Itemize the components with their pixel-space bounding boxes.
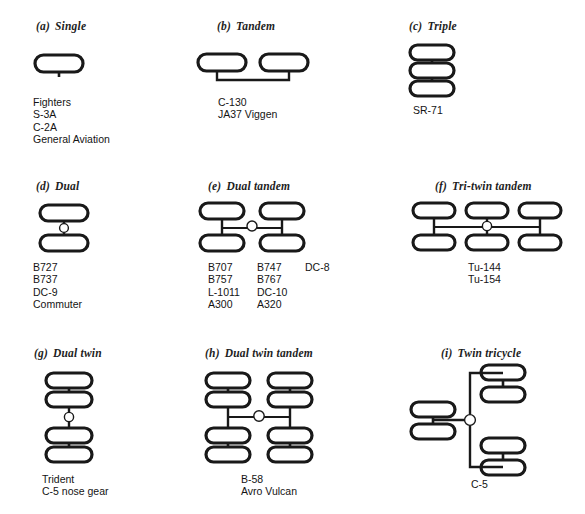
list-item: B757 bbox=[208, 273, 257, 285]
list-item: Commuter bbox=[33, 298, 153, 310]
panel-f-diagram bbox=[410, 199, 580, 257]
list-item: B707 bbox=[208, 261, 257, 273]
hub-circle-icon bbox=[482, 221, 491, 230]
list-column: Fighters S-3A C-2A General Aviation bbox=[33, 96, 153, 146]
hub-circle-icon bbox=[64, 412, 73, 421]
tire-icon bbox=[410, 63, 454, 78]
tire-icon bbox=[200, 203, 244, 219]
tire-icon bbox=[519, 235, 561, 250]
list-column: C-5 bbox=[471, 478, 581, 490]
panel-d-name: Dual bbox=[55, 180, 79, 192]
list-item: A300 bbox=[208, 298, 257, 310]
tire-icon bbox=[411, 424, 455, 439]
tire-icon bbox=[260, 235, 304, 251]
panel-a-label: (a) bbox=[36, 20, 50, 32]
list-item: B747 bbox=[257, 261, 305, 273]
hub-circle-icon bbox=[60, 224, 69, 233]
panel-d-aircraft-list: B727 B737 DC-9 Commuter bbox=[33, 261, 153, 311]
list-item: A320 bbox=[257, 298, 305, 310]
tire-icon bbox=[466, 203, 508, 218]
list-column: Tu-144 Tu-154 bbox=[468, 261, 558, 286]
panel-b-name: Tandem bbox=[236, 20, 275, 32]
panel-f-aircraft-list: Tu-144 Tu-154 bbox=[468, 261, 558, 286]
tire-icon bbox=[260, 54, 308, 71]
list-column: SR-71 bbox=[413, 104, 523, 116]
panel-e-label: (e) bbox=[208, 180, 221, 192]
panel-f-name: Tri-twin tandem bbox=[452, 180, 532, 192]
list-item: Avro Vulcan bbox=[241, 485, 361, 497]
panel-i-aircraft-list: C-5 bbox=[471, 478, 581, 490]
panel-h-label: (h) bbox=[205, 347, 220, 359]
panel-h-caption: (h)Dual twin tandem bbox=[205, 347, 313, 359]
list-item: DC-8 bbox=[305, 261, 349, 273]
list-item: JA37 Viggen bbox=[218, 108, 338, 120]
hub-circle-icon bbox=[247, 221, 257, 231]
panel-a-diagram bbox=[30, 48, 100, 84]
panel-b-label: (b) bbox=[217, 20, 231, 32]
panel-i-diagram bbox=[408, 362, 558, 484]
panel-i-label: (i) bbox=[441, 347, 452, 359]
list-item: SR-71 bbox=[413, 104, 523, 116]
tire-icon bbox=[46, 392, 92, 407]
tire-icon bbox=[198, 54, 246, 71]
list-item: B727 bbox=[33, 261, 153, 273]
panel-g-diagram bbox=[42, 370, 112, 466]
landing-gear-figure-sheet: (a)Single Fighters S-3A C-2A General Avi… bbox=[0, 0, 585, 514]
tire-icon bbox=[206, 447, 250, 462]
tire-icon bbox=[411, 402, 455, 417]
panel-g-caption: (g)Dual twin bbox=[34, 347, 102, 359]
tire-icon bbox=[466, 235, 508, 250]
tire-icon bbox=[481, 438, 525, 453]
panel-d-label: (d) bbox=[36, 180, 50, 192]
list-column: B747 B767 DC-10 A320 bbox=[257, 261, 305, 311]
tire-icon bbox=[206, 428, 250, 443]
tire-icon bbox=[46, 447, 92, 462]
panel-c-aircraft-list: SR-71 bbox=[413, 104, 523, 116]
list-item: C-5 nose gear bbox=[42, 485, 162, 497]
list-item: General Aviation bbox=[33, 133, 153, 145]
tire-icon bbox=[268, 392, 312, 407]
panel-h-diagram bbox=[202, 370, 324, 466]
tire-icon bbox=[519, 203, 561, 218]
list-item: Fighters bbox=[33, 96, 153, 108]
tire-icon bbox=[40, 235, 88, 251]
panel-e-caption: (e)Dual tandem bbox=[208, 180, 290, 192]
tire-icon bbox=[35, 55, 83, 72]
panel-d-caption: (d)Dual bbox=[36, 180, 79, 192]
panel-c-label: (c) bbox=[409, 20, 422, 32]
list-column: B-58 Avro Vulcan bbox=[241, 473, 361, 498]
panel-d-diagram bbox=[36, 202, 106, 256]
tire-icon bbox=[481, 387, 525, 402]
panel-a-caption: (a)Single bbox=[36, 20, 86, 32]
hub-circle-icon bbox=[465, 415, 476, 426]
panel-c-name: Triple bbox=[427, 20, 457, 32]
list-item: C-5 bbox=[471, 478, 581, 490]
panel-a-name: Single bbox=[55, 20, 86, 32]
list-item: B-58 bbox=[241, 473, 361, 485]
tire-icon bbox=[46, 428, 92, 443]
tire-icon bbox=[260, 203, 304, 219]
list-item: DC-9 bbox=[33, 286, 153, 298]
list-item: Tu-144 bbox=[468, 261, 558, 273]
list-column: Trident C-5 nose gear bbox=[42, 473, 162, 498]
panel-b-aircraft-list: C-130 JA37 Viggen bbox=[218, 96, 338, 121]
list-item: DC-10 bbox=[257, 286, 305, 298]
panel-e-name: Dual tandem bbox=[226, 180, 290, 192]
list-item: Tu-154 bbox=[468, 273, 558, 285]
panel-g-name: Dual twin bbox=[53, 347, 102, 359]
tire-icon bbox=[268, 428, 312, 443]
panel-g-aircraft-list: Trident C-5 nose gear bbox=[42, 473, 162, 498]
list-item: B737 bbox=[33, 273, 153, 285]
panel-b-caption: (b)Tandem bbox=[217, 20, 275, 32]
panel-i-caption: (i)Twin tricycle bbox=[441, 347, 521, 359]
list-item: C-130 bbox=[218, 96, 338, 108]
list-item: Trident bbox=[42, 473, 162, 485]
tire-icon bbox=[206, 373, 250, 388]
panel-i-name: Twin tricycle bbox=[457, 347, 521, 359]
panel-b-diagram bbox=[194, 48, 324, 92]
list-column: DC-8 bbox=[305, 261, 349, 273]
list-item: L-1011 bbox=[208, 286, 257, 298]
list-column: B727 B737 DC-9 Commuter bbox=[33, 261, 153, 311]
tire-icon bbox=[268, 373, 312, 388]
tire-icon bbox=[413, 235, 455, 250]
